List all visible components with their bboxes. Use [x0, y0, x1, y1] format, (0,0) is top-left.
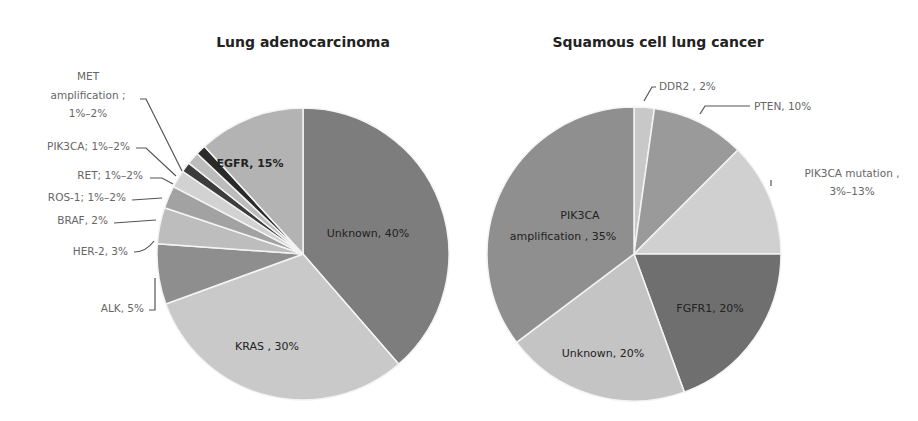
leader-her2: [134, 241, 154, 252]
chart-title-left: Lung adenocarcinoma: [216, 34, 390, 50]
label-ddr2: DDR2 , 2%: [659, 80, 716, 92]
label-pten: PTEN, 10%: [754, 100, 811, 112]
label-pik3ca-left: PIK3CA; 1%–2%: [47, 140, 130, 152]
label-unknown-right: Unknown, 20%: [562, 347, 645, 360]
label-pik3ca-mutation-1: PIK3CA mutation ,: [804, 167, 899, 179]
label-egfr: EGFR, 15%: [216, 157, 283, 170]
label-her2: HER-2, 3%: [73, 245, 128, 257]
label-ret: RET; 1%–2%: [77, 169, 143, 181]
leader-met: [140, 99, 182, 171]
chart-figure: Lung adenocarcinoma Unknown, 40% KRAS , …: [0, 0, 918, 421]
label-pik3ca-amp-1: PIK3CA: [560, 209, 600, 222]
pie-squamous-cell: Squamous cell lung cancer PIK3CA amplifi…: [487, 34, 900, 401]
label-kras: KRAS , 30%: [235, 340, 299, 353]
leader-ros1: [132, 198, 162, 200]
label-met-2: amplification ;: [51, 89, 126, 101]
label-alk: ALK, 5%: [101, 302, 144, 314]
chart-title-right: Squamous cell lung cancer: [552, 34, 763, 50]
leader-braf: [114, 220, 156, 223]
leader-ddr2: [644, 87, 656, 101]
leader-ret: [150, 178, 173, 184]
pie-lung-adenocarcinoma: Lung adenocarcinoma Unknown, 40% KRAS , …: [47, 34, 449, 400]
leader-alk: [149, 278, 155, 310]
label-pik3ca-amp-2: amplification , 35%: [510, 230, 616, 243]
label-fgfr1: FGFR1, 20%: [676, 302, 743, 315]
left-pie-slices: [157, 108, 449, 400]
label-pik3ca-mutation-2: 3%–13%: [829, 185, 874, 197]
label-ros1: ROS-1; 1%–2%: [48, 191, 126, 203]
label-met-1: MET: [77, 70, 100, 82]
label-unknown-left: Unknown, 40%: [327, 227, 410, 240]
leader-pten: [700, 106, 750, 114]
label-met-3: 1%–2%: [69, 107, 108, 119]
label-braf: BRAF, 2%: [57, 214, 108, 226]
